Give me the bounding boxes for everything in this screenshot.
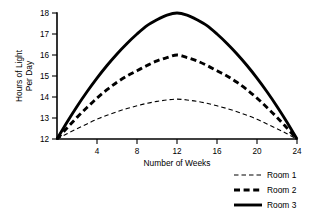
series-line-room-1 bbox=[57, 99, 297, 139]
y-tick-label: 17 bbox=[40, 30, 50, 39]
line-chart: 12131415161718 Hours of Light Per Day 48… bbox=[0, 0, 319, 215]
y-tick-label: 13 bbox=[40, 114, 50, 123]
y-tick-label: 12 bbox=[40, 135, 50, 144]
x-tick-label: 20 bbox=[252, 147, 262, 156]
legend-label-room-1: Room 1 bbox=[267, 170, 297, 180]
series-line-room-3 bbox=[57, 13, 297, 139]
x-axis-title: Number of Weeks bbox=[144, 158, 211, 168]
y-axis-title-line2: Per Day bbox=[24, 60, 34, 91]
y-axis-title-line1: Hours of Light bbox=[14, 49, 24, 102]
legend-label-room-2: Room 2 bbox=[267, 185, 297, 195]
series-lines bbox=[57, 13, 297, 139]
y-axis-group: 12131415161718 Hours of Light Per Day bbox=[14, 9, 57, 144]
x-tick-label: 16 bbox=[212, 147, 222, 156]
x-tick-label: 4 bbox=[95, 147, 100, 156]
x-axis-group: 4812162024 Number of Weeks bbox=[57, 139, 302, 168]
chart-figure: 12131415161718 Hours of Light Per Day 48… bbox=[0, 0, 319, 215]
series-line-room-2 bbox=[57, 55, 297, 139]
y-tick-label: 18 bbox=[40, 9, 50, 18]
x-tick-label: 12 bbox=[172, 147, 182, 156]
x-tick-label: 8 bbox=[135, 147, 140, 156]
x-axis-tick-labels: 4812162024 bbox=[95, 147, 302, 156]
y-tick-label: 15 bbox=[40, 72, 50, 81]
y-tick-label: 16 bbox=[40, 51, 50, 60]
x-tick-label: 24 bbox=[292, 147, 302, 156]
chart-legend: Room 1Room 2Room 3 bbox=[234, 170, 297, 210]
legend-label-room-3: Room 3 bbox=[267, 200, 297, 210]
y-tick-label: 14 bbox=[40, 93, 50, 102]
y-axis-tick-labels: 12131415161718 bbox=[40, 9, 50, 144]
